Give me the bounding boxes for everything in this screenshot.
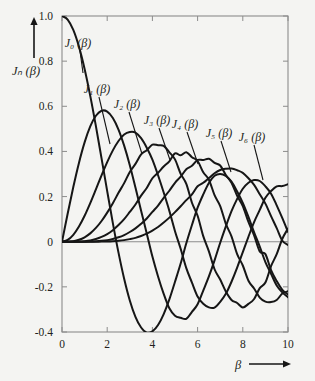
x-tick-label: 2: [104, 338, 110, 350]
y-tick-label: 0: [47, 236, 53, 248]
y-tick-label: 0.2: [39, 191, 54, 203]
y-tick-label: 1.0: [39, 10, 54, 22]
curve-label-J5: J₅ (β): [206, 126, 232, 140]
y-tick-label: -0.2: [35, 281, 53, 293]
curve-label-J4: J₄ (β): [172, 117, 198, 131]
y-tick-label: -0.4: [35, 326, 53, 338]
x-tick-label: 4: [150, 338, 156, 350]
y-tick-label: 0.6: [39, 100, 54, 112]
curve-label-J3: J₃ (β): [144, 113, 170, 127]
y-tick-label: 0.8: [39, 55, 54, 67]
curve-label-J1: J₁ (β): [84, 82, 110, 96]
y-axis-title: Jₙ (β): [12, 64, 40, 78]
x-tick-label: 8: [240, 338, 246, 350]
x-axis-title: β: [234, 358, 242, 372]
bessel-plot-svg: 0246810 1.00.80.60.40.20-0.2-0.4 J₀ (β)J…: [0, 0, 315, 381]
x-tick-label: 10: [282, 338, 294, 350]
curve-label-J2: J₂ (β): [114, 97, 140, 111]
x-tick-label: 0: [59, 338, 65, 350]
curve-label-J0: J₀ (β): [65, 36, 91, 50]
y-tick-label: 0.4: [39, 145, 54, 157]
curve-label-J6: J₆ (β): [239, 130, 265, 144]
x-tick-label: 6: [195, 338, 201, 350]
bessel-function-figure: 0246810 1.00.80.60.40.20-0.2-0.4 J₀ (β)J…: [0, 0, 315, 381]
